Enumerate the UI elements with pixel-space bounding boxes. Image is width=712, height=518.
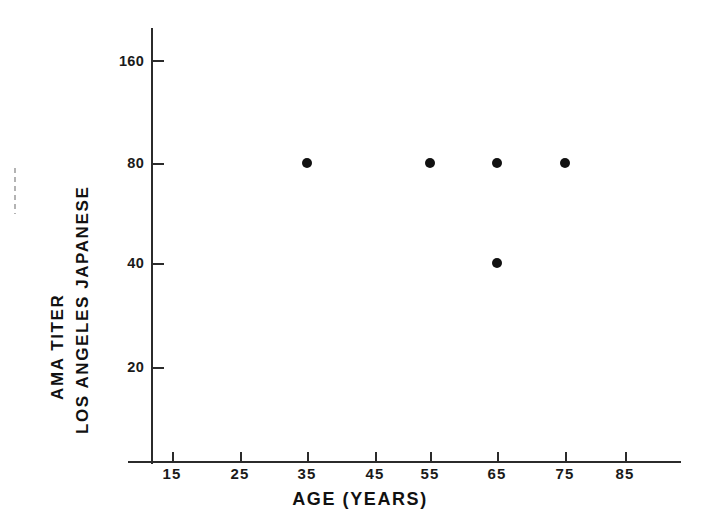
data-point-age-65-titer-40 bbox=[492, 258, 502, 268]
data-point-age-65-titer-80 bbox=[492, 158, 502, 168]
y-tick-label-40: 40 bbox=[84, 256, 144, 271]
x-tick-label-35: 35 bbox=[277, 466, 337, 481]
x-axis-line bbox=[128, 461, 681, 463]
x-tick-45 bbox=[375, 452, 377, 462]
x-tick-35 bbox=[307, 452, 309, 462]
y-tick-20 bbox=[153, 367, 164, 369]
x-tick-65 bbox=[497, 452, 499, 462]
scatter-plot-figure: 160 80 40 20 15 25 35 45 55 65 75 85 AGE… bbox=[0, 0, 712, 518]
x-tick-25 bbox=[240, 452, 242, 462]
y-tick-label-20: 20 bbox=[84, 360, 144, 375]
x-axis-title: AGE (YEARS) bbox=[150, 489, 570, 510]
y-tick-label-80-wrap: 80 bbox=[80, 156, 144, 172]
y-tick-40 bbox=[153, 263, 164, 265]
x-tick-75 bbox=[565, 452, 567, 462]
x-tick-label-45: 45 bbox=[345, 466, 405, 481]
y-tick-label-160-wrap: 160 bbox=[80, 54, 144, 70]
x-tick-85 bbox=[625, 452, 627, 462]
y-tick-label-80: 80 bbox=[84, 156, 144, 171]
x-tick-label-65: 65 bbox=[467, 466, 527, 481]
y-axis-title-line-1: AMA TITER bbox=[48, 294, 68, 400]
y-tick-160 bbox=[153, 60, 164, 62]
x-tick-55 bbox=[430, 452, 432, 462]
x-tick-label-85: 85 bbox=[595, 466, 655, 481]
data-point-age-75-titer-80 bbox=[560, 158, 570, 168]
x-tick-label-55: 55 bbox=[400, 466, 460, 481]
y-tick-80 bbox=[153, 163, 164, 165]
scan-artifact-mark bbox=[14, 168, 16, 214]
y-axis-title-line-2: LOS ANGELES JAPANESE bbox=[73, 186, 93, 434]
x-tick-label-75: 75 bbox=[535, 466, 595, 481]
x-tick-15 bbox=[172, 452, 174, 462]
y-axis-line bbox=[151, 28, 153, 464]
data-point-age-35-titer-80 bbox=[302, 158, 312, 168]
y-tick-label-160: 160 bbox=[84, 54, 144, 69]
data-point-age-55-titer-80 bbox=[425, 158, 435, 168]
x-tick-label-25: 25 bbox=[210, 466, 270, 481]
x-tick-label-15: 15 bbox=[142, 466, 202, 481]
